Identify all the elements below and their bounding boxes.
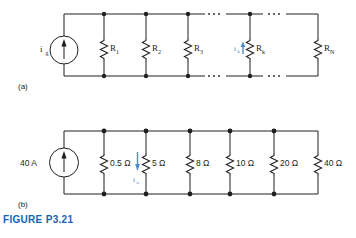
panel-b-branch-1-label: 0.5 Ω	[110, 158, 131, 168]
panel-a-source-label: i	[40, 44, 43, 54]
panel-b-branch-r1: 0.5 Ω	[100, 129, 130, 197]
panel-b-branch-current-label: i	[133, 176, 135, 184]
panel-a-branch-current-arrow-up-icon	[241, 42, 246, 55]
panel-a-branch-1-label-sub: 1	[116, 49, 119, 55]
panel-a-branch-3-label-sub: 3	[200, 49, 203, 55]
panel-a-bottom-ellipsis-1	[208, 75, 220, 77]
panel-b-branch-2-label: 5 Ω	[152, 158, 165, 168]
panel-b-branch-r5: 20 Ω	[270, 129, 298, 197]
panel-b-source-label: 40 A	[20, 158, 37, 168]
panel-b-branch-3-label: 8 Ω	[196, 158, 209, 168]
figure-p3-21: i g R 1 R 2	[0, 0, 356, 238]
panel-b-circuit: 40 A 0.5 Ω 5 Ω	[18, 129, 342, 209]
panel-a-branch-current-label: i	[234, 45, 236, 53]
panel-a-branch-n-label-sub: N	[330, 49, 335, 55]
panel-a-bottom-ellipsis-2	[268, 75, 280, 77]
panel-b-branch-4-label: 10 Ω	[236, 158, 254, 168]
panel-b-branch-6-label: 40 Ω	[324, 158, 342, 168]
panel-a-top-ellipsis-2	[268, 13, 280, 15]
panel-b-branch-current-arrow-down-icon	[135, 152, 140, 171]
circuit-diagram: i g R 1 R 2	[0, 0, 356, 238]
panel-a-branch-r1: R 1	[100, 12, 119, 78]
panel-b-tag: (b)	[18, 200, 28, 209]
panel-a-branch-2-label-sub: 2	[158, 49, 161, 55]
panel-a-tag: (a)	[18, 82, 28, 91]
panel-a-circuit: i g R 1 R 2	[18, 12, 335, 91]
panel-a-branch-rn: R N	[314, 38, 335, 62]
panel-b-branch-r3: 8 Ω	[186, 129, 209, 197]
panel-b-branch-r2: 5 Ω i o	[133, 129, 165, 197]
panel-a-branch-rk: R k i k	[234, 12, 265, 78]
figure-caption: FIGURE P3.21	[3, 214, 73, 225]
panel-a-branch-current-label-sub: k	[238, 49, 241, 54]
panel-b-branch-r4: 10 Ω	[226, 129, 254, 197]
panel-a-branch-r2: R 2	[142, 12, 161, 78]
panel-b-branch-current-label-sub: o	[137, 180, 140, 185]
panel-a-branch-r3: R 3	[184, 12, 203, 78]
panel-b-branch-5-label: 20 Ω	[280, 158, 298, 168]
panel-a-branch-k-label-sub: k	[262, 49, 265, 55]
panel-a-source-label-sub: g	[46, 50, 49, 56]
panel-a-top-ellipsis-1	[208, 13, 220, 15]
panel-b-branch-r6: 40 Ω	[314, 153, 342, 177]
